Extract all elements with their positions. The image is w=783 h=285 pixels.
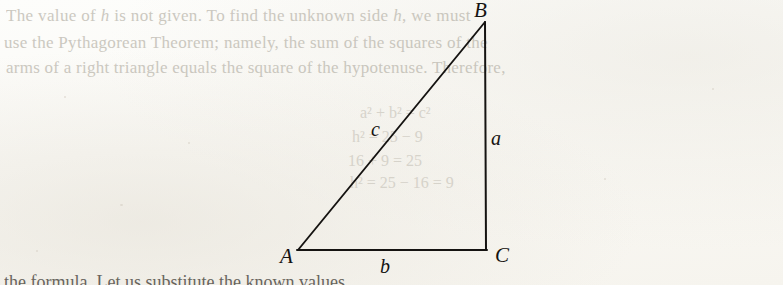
right-triangle-figure: B A C a c b bbox=[0, 0, 783, 285]
vertex-label-B: B bbox=[474, 0, 487, 21]
triangle-side-a-vertical-leg bbox=[485, 22, 486, 250]
side-label-b: b bbox=[380, 256, 390, 276]
vertex-label-A: A bbox=[280, 246, 293, 267]
triangle-svg bbox=[0, 0, 783, 285]
bottom-clipped-text-line: the formula. Let us substitute the known… bbox=[4, 272, 345, 285]
triangle-side-c-hypotenuse bbox=[298, 22, 485, 250]
side-label-c: c bbox=[371, 119, 380, 139]
side-label-a: a bbox=[491, 128, 501, 148]
vertex-label-C: C bbox=[495, 245, 509, 266]
